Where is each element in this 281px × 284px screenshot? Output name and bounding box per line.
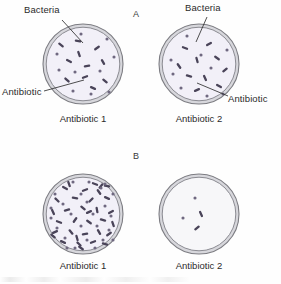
petri-dish-b1 xyxy=(43,174,123,254)
dish-agar-b2 xyxy=(163,178,234,249)
bacteria-dot xyxy=(71,89,74,92)
petri-dish-diagram-svg xyxy=(0,0,281,284)
bacteria-dot xyxy=(79,32,82,35)
panel-label-b: B xyxy=(133,152,139,161)
callout-label-bacteria-a2: Bacteria xyxy=(185,3,221,13)
bacteria-dot xyxy=(99,186,102,189)
bacteria-dot xyxy=(169,58,172,61)
panel-label-a: A xyxy=(133,10,139,19)
bacteria-dot xyxy=(185,34,188,37)
dish-layer xyxy=(43,24,239,254)
bacteria-dot xyxy=(65,246,68,249)
bacteria-dot xyxy=(171,72,174,75)
bacteria-dot xyxy=(55,226,58,229)
bacteria-dot xyxy=(111,238,114,241)
bacteria-dot xyxy=(87,180,90,183)
bacteria-dot xyxy=(111,192,114,195)
bacteria-dot xyxy=(73,70,76,73)
bacteria-dot xyxy=(107,90,110,93)
callout-label-antibiotic-a2: Antibiotic xyxy=(228,94,268,104)
bacteria-dot xyxy=(57,68,60,71)
bacteria-dot xyxy=(179,86,182,89)
bacteria-dot xyxy=(69,212,72,215)
bacteria-dot xyxy=(103,204,106,207)
bacteria-dot xyxy=(107,228,110,231)
bacteria-dot xyxy=(63,236,66,239)
dish-caption-a2: Antibiotic 2 xyxy=(159,114,239,124)
bacteria-dot xyxy=(85,200,88,203)
bacteria-dot xyxy=(199,53,202,56)
bacteria-dot xyxy=(105,37,108,40)
bacteria-dot xyxy=(49,216,52,219)
figure-container: A B Bacteria Antibiotic Bacteria Antibio… xyxy=(0,0,281,284)
bacteria-dot xyxy=(71,180,74,183)
bacteria-dot xyxy=(89,92,92,95)
bacteria-dot xyxy=(193,196,196,199)
dish-caption-b2: Antibiotic 2 xyxy=(159,261,239,271)
dish-agar-b1 xyxy=(47,178,118,249)
bacteria-dot xyxy=(109,214,112,217)
bacteria-dot xyxy=(73,246,76,249)
bacteria-dot xyxy=(91,212,94,215)
petri-dish-a1 xyxy=(43,24,123,104)
dish-caption-b1: Antibiotic 1 xyxy=(43,261,123,271)
bacteria-dot xyxy=(101,238,104,241)
bacteria-dot xyxy=(98,69,101,72)
bacteria-dot xyxy=(205,94,208,97)
dish-caption-a1: Antibiotic 1 xyxy=(43,114,123,124)
bacteria-dot xyxy=(55,52,58,55)
bacteria-dot xyxy=(103,182,106,185)
bacteria-dot xyxy=(93,246,96,249)
bacteria-dot xyxy=(53,192,56,195)
bacteria-dot xyxy=(79,192,82,195)
bacteria-dot xyxy=(225,48,228,51)
bacteria-dot xyxy=(61,202,64,205)
bacteria-dot xyxy=(209,66,212,69)
scan-artifact-footer xyxy=(0,277,281,282)
bacteria-dot xyxy=(49,206,52,209)
bacteria-dot xyxy=(79,224,82,227)
bacteria-dot xyxy=(85,238,88,241)
bacteria-dot xyxy=(95,224,98,227)
petri-dish-b2 xyxy=(159,174,239,254)
callout-label-antibiotic-a1: Antibiotic xyxy=(2,87,42,97)
callout-label-bacteria-a1: Bacteria xyxy=(24,5,60,15)
bacteria-dot xyxy=(181,216,184,219)
bacteria-dot xyxy=(112,55,115,58)
